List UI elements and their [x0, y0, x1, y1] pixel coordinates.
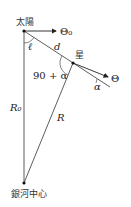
sun-label: 太陽 [16, 16, 34, 27]
galactic-center-label: 銀河中心 [11, 188, 47, 199]
ell-label: ℓ [28, 41, 32, 52]
angle-star-label: 90 + α [33, 70, 67, 81]
star-point [71, 61, 74, 64]
r0-label: R₀ [9, 102, 22, 113]
star-label: 星 [75, 50, 84, 60]
galactic-rotation-diagram: 太陽 Θ₀ ℓ d 星 90 + α α Θ R₀ R 銀河中心 [0, 0, 131, 207]
theta-arrow [73, 63, 108, 77]
r-line [24, 63, 73, 183]
sun-point [22, 29, 25, 32]
theta0-label: Θ₀ [60, 26, 72, 37]
theta-label: Θ [111, 73, 119, 84]
d-label: d [54, 41, 60, 52]
alpha-label: α [94, 81, 101, 92]
r-label: R [56, 112, 65, 123]
galactic-center-point [22, 181, 25, 184]
